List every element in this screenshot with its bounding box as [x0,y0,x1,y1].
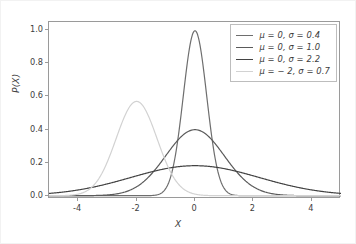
legend-line-icon [236,35,253,36]
y-tick-label: 0.6 [30,91,43,99]
legend-item-3[interactable]: μ = − 2, σ = 0.7 [236,65,330,77]
y-tick-label: 0.2 [30,158,43,166]
legend-line-icon [236,47,253,48]
legend-line-icon [236,59,253,60]
y-tick-label: 0.0 [30,191,43,199]
y-axis-label: P(X) [11,74,21,93]
gaussian-curve-2 [49,166,341,194]
legend-label: μ = − 2, σ = 0.7 [259,66,330,76]
legend-item-2[interactable]: μ = 0, σ = 2.2 [236,53,330,65]
legend-box: μ = 0, σ = 0.4μ = 0, σ = 1.0μ = 0, σ = 2… [230,24,337,82]
x-tick-label: -2 [116,204,156,212]
x-tick-label: 4 [291,204,331,212]
x-tick-label: -4 [57,204,97,212]
legend-item-1[interactable]: μ = 0, σ = 1.0 [236,41,330,53]
figure-canvas: P(X) 0.00.20.40.60.81.0 -4-2024 μ = 0, σ… [0,0,356,244]
y-tick-label: 0.8 [30,58,43,66]
x-axis-label: X [0,219,356,229]
y-tick-label: 0.4 [30,125,43,133]
legend-item-0[interactable]: μ = 0, σ = 0.4 [236,29,330,41]
x-tick-label: 0 [174,204,214,212]
legend-label: μ = 0, σ = 0.4 [259,30,320,40]
x-tick-label: 2 [232,204,272,212]
legend-label: μ = 0, σ = 1.0 [259,42,320,52]
plot-area: μ = 0, σ = 0.4μ = 0, σ = 1.0μ = 0, σ = 2… [48,21,340,198]
legend-label: μ = 0, σ = 2.2 [259,54,320,64]
legend-line-icon [236,71,253,72]
gaussian-curve-3 [49,101,341,195]
y-tick-label: 1.0 [30,25,43,33]
